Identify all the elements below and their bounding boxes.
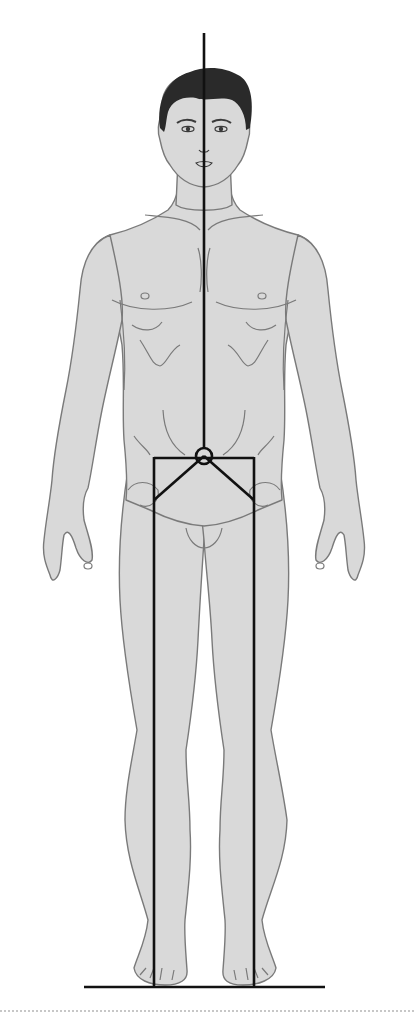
right-leg	[202, 470, 289, 985]
left-thumb-nail	[84, 563, 92, 569]
left-arm	[43, 235, 122, 580]
right-arm	[286, 235, 365, 580]
anatomy-diagram: front-view human figure with line of gra…	[0, 0, 416, 1021]
body-figure-svg	[0, 0, 416, 1021]
left-leg	[119, 470, 206, 985]
right-thumb-nail	[316, 563, 324, 569]
